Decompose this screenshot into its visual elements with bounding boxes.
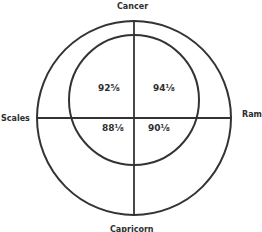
value-upper-left: 92⅝ [98, 83, 120, 93]
value-lower-left: 88⅛ [102, 123, 124, 133]
label-right: Ram [242, 110, 262, 119]
value-upper-right: 94⅛ [153, 83, 175, 93]
orbit-diagram-graphic [0, 0, 262, 232]
label-bottom: Capricorn [110, 225, 154, 232]
value-lower-right: 90⅛ [148, 123, 170, 133]
label-left: Scales [1, 114, 30, 123]
label-top: Cancer [117, 2, 148, 11]
diagram: Cancer Scales Ram Capricorn 92⅝ 94⅛ 88⅛ … [0, 0, 262, 232]
